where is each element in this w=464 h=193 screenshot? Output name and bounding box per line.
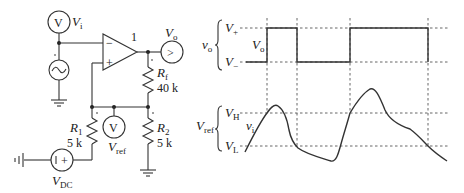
- vo-label: Vo: [165, 25, 178, 42]
- dc-source: + VDC: [51, 149, 73, 190]
- svg-text:V+: V+: [225, 20, 238, 37]
- svg-text:VH: VH: [225, 105, 240, 122]
- circuit: V Vi − + 1: [15, 11, 183, 190]
- vdc-label: VDC: [52, 173, 72, 190]
- svg-text:+: +: [61, 154, 68, 168]
- brace: [215, 20, 222, 70]
- voltmeter-icon: V: [54, 16, 63, 30]
- ground-icon: [15, 153, 23, 167]
- svg-text:−: −: [106, 36, 113, 50]
- svg-text:40 k: 40 k: [157, 81, 178, 95]
- resistor-r2: R2 5 k: [143, 107, 172, 170]
- resistor-r1: R1 5 k: [67, 107, 97, 160]
- voltmeter-icon: V: [109, 121, 118, 135]
- waveforms: vo V+ V− Vo Vref VH VL vi: [196, 18, 448, 161]
- svg-text:5 k: 5 k: [67, 136, 82, 150]
- ground-icon: [51, 100, 67, 106]
- vo-square-wave: [246, 28, 428, 62]
- vo-axis-label: vo: [202, 37, 213, 54]
- svg-text:R1: R1: [69, 120, 82, 137]
- vi-voltmeter: V Vi: [48, 11, 83, 33]
- vref-voltmeter: V Vref: [103, 107, 126, 156]
- svg-text:5 k: 5 k: [157, 136, 172, 150]
- op-amp: − + 1: [103, 30, 137, 70]
- schmitt-trigger-diagram: V Vi − + 1: [0, 0, 464, 193]
- vref-label: Vref: [108, 139, 126, 156]
- vi-label: Vi: [72, 14, 83, 31]
- vi-input-wave: [245, 89, 447, 161]
- svg-text:VL: VL: [225, 138, 238, 155]
- svg-text:1: 1: [131, 30, 137, 44]
- svg-text:V−: V−: [225, 54, 238, 71]
- svg-text:Rf: Rf: [156, 65, 168, 82]
- vref-axis-label: Vref: [196, 118, 214, 135]
- brace: [215, 106, 222, 151]
- svg-text:R2: R2: [156, 120, 169, 137]
- svg-text:+: +: [106, 56, 113, 70]
- vo-voltmeter: > Vo: [161, 25, 183, 63]
- output-meter-icon: >: [167, 46, 174, 60]
- svg-text:Vo: Vo: [252, 37, 265, 54]
- resistor-rf: Rf 40 k: [143, 52, 178, 107]
- ground-icon: [140, 170, 156, 176]
- sine-icon: [52, 67, 66, 73]
- svg-text:vi: vi: [246, 118, 255, 135]
